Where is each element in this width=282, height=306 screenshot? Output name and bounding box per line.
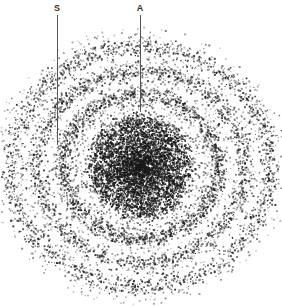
leader-line-s (57, 15, 58, 145)
label-a: A (137, 4, 144, 13)
label-s: S (54, 4, 60, 13)
leader-line-a (140, 15, 141, 112)
dot-density-plot (0, 0, 282, 306)
